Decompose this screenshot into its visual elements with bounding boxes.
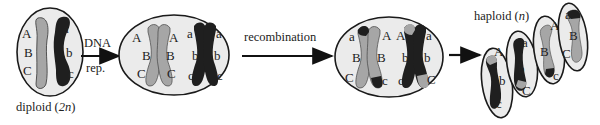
- gene-label: B: [377, 50, 386, 65]
- diploid-cell: A B C a b c diploid (2n): [16, 8, 83, 114]
- gene-label: B: [142, 48, 151, 63]
- recombination-arrow: recombination: [242, 30, 332, 56]
- gene-label: C: [522, 83, 531, 98]
- gene-label: a: [349, 29, 355, 44]
- gene-label: A: [132, 30, 142, 45]
- gene-label: c: [188, 68, 194, 83]
- gene-label: a: [565, 7, 571, 22]
- arrow-label-recombination: recombination: [244, 30, 317, 44]
- dna-replication-arrow: DNA rep.: [81, 36, 119, 75]
- gene-label: b: [499, 73, 506, 88]
- light-chromosome: [36, 18, 48, 89]
- gene-label: C: [23, 63, 32, 78]
- gene-label: a: [522, 35, 528, 50]
- replicated-cell: A B C A B C a b c a b c: [119, 15, 229, 95]
- gene-label: A: [169, 30, 179, 45]
- gene-label: a: [426, 28, 432, 43]
- meiosis-diagram: A B C a b c diploid (2n) DNA rep. A B C …: [0, 0, 600, 125]
- arrow-label-dna: DNA: [84, 36, 111, 50]
- gene-label: C: [167, 66, 176, 81]
- haploid-caption: haploid (n): [474, 9, 529, 23]
- gene-label: B: [166, 48, 175, 63]
- diploid-caption: diploid (2n): [16, 100, 75, 114]
- gene-label: c: [382, 73, 388, 88]
- gene-label: c: [553, 68, 559, 83]
- gene-label: C: [137, 66, 146, 81]
- gene-label: B: [569, 28, 578, 43]
- gene-label: A: [382, 28, 392, 43]
- gene-label: c: [398, 73, 404, 88]
- gene-label: A: [22, 26, 32, 41]
- gene-label: C: [562, 46, 571, 61]
- gene-label: b: [402, 50, 409, 65]
- gene-label: A: [396, 28, 406, 43]
- gene-label: C: [427, 72, 436, 87]
- gene-label: b: [192, 48, 199, 63]
- gene-label: A: [494, 44, 504, 59]
- gene-label: b: [66, 45, 73, 60]
- gene-label: B: [540, 44, 549, 59]
- gene-label: b: [424, 50, 431, 65]
- gene-label: B: [352, 50, 361, 65]
- gene-label: c: [68, 66, 74, 81]
- gene-label: a: [63, 21, 69, 36]
- haploid-cells: haploid (n) A b c a b C A B c: [474, 1, 592, 119]
- gene-label: b: [214, 48, 221, 63]
- gene-label: c: [217, 68, 223, 83]
- gene-label: b: [518, 61, 525, 76]
- arrow-label-rep: rep.: [86, 61, 105, 75]
- recombined-cell: a B C A B c A b c a b C: [335, 17, 443, 97]
- gene-label: B: [24, 45, 33, 60]
- gene-label: a: [216, 26, 222, 41]
- gene-label: a: [187, 26, 193, 41]
- gene-label: c: [496, 96, 502, 111]
- gene-label: C: [345, 70, 354, 85]
